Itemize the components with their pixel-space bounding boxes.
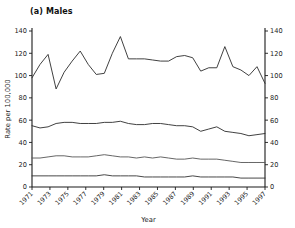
y-tick-label-left: 140 xyxy=(14,27,27,35)
chart-figure: (a) Males 020406080100120140 02040608010… xyxy=(0,0,295,228)
y-tick-label-left: 80 xyxy=(19,94,27,102)
y-tick-label-right: 60 xyxy=(270,117,278,125)
x-axis: 1971197319751977197919811983198519871989… xyxy=(18,187,268,207)
y-tick-label-right: 120 xyxy=(270,50,283,58)
x-tick-label: 1973 xyxy=(36,190,53,207)
series-lines xyxy=(32,37,265,179)
x-tick-label: 1993 xyxy=(215,190,232,207)
series-line-series-3 xyxy=(32,155,265,163)
series-line-series-2 xyxy=(32,121,265,135)
x-tick-label: 1979 xyxy=(89,190,106,207)
y-tick-label-right: 40 xyxy=(270,139,278,147)
y-tick-label-right: 100 xyxy=(270,72,283,80)
y-axis-label: Rate per 100,000 xyxy=(4,79,12,138)
y-axis-left: 020406080100120140 xyxy=(14,27,32,191)
x-tick-label: 1995 xyxy=(233,190,250,207)
x-tick-label: 1971 xyxy=(18,190,35,207)
x-tick-label: 1977 xyxy=(72,190,89,207)
x-tick-label: 1991 xyxy=(197,190,214,207)
y-tick-label-left: 40 xyxy=(19,139,27,147)
y-tick-label-right: 80 xyxy=(270,94,278,102)
y-tick-label-left: 120 xyxy=(14,50,27,58)
y-tick-label-right: 20 xyxy=(270,161,278,169)
y-tick-label-right: 140 xyxy=(270,27,283,35)
x-tick-label: 1997 xyxy=(251,190,268,207)
line-chart: 020406080100120140 020406080100120140 19… xyxy=(0,0,295,228)
y-axis-right: 020406080100120140 xyxy=(265,27,283,191)
x-tick-label: 1989 xyxy=(179,190,196,207)
y-tick-label-right: 0 xyxy=(270,183,274,191)
x-tick-label: 1987 xyxy=(161,190,178,207)
y-tick-label-left: 100 xyxy=(14,72,27,80)
y-tick-label-left: 20 xyxy=(19,161,27,169)
y-tick-label-left: 60 xyxy=(19,117,27,125)
x-tick-label: 1983 xyxy=(125,190,142,207)
x-tick-label: 1981 xyxy=(107,190,124,207)
series-line-series-1 xyxy=(32,37,265,89)
x-tick-label: 1985 xyxy=(143,190,160,207)
series-line-series-4 xyxy=(32,175,265,178)
x-tick-label: 1975 xyxy=(54,190,71,207)
y-tick-label-left: 0 xyxy=(23,183,27,191)
x-axis-label: Year xyxy=(140,216,156,224)
